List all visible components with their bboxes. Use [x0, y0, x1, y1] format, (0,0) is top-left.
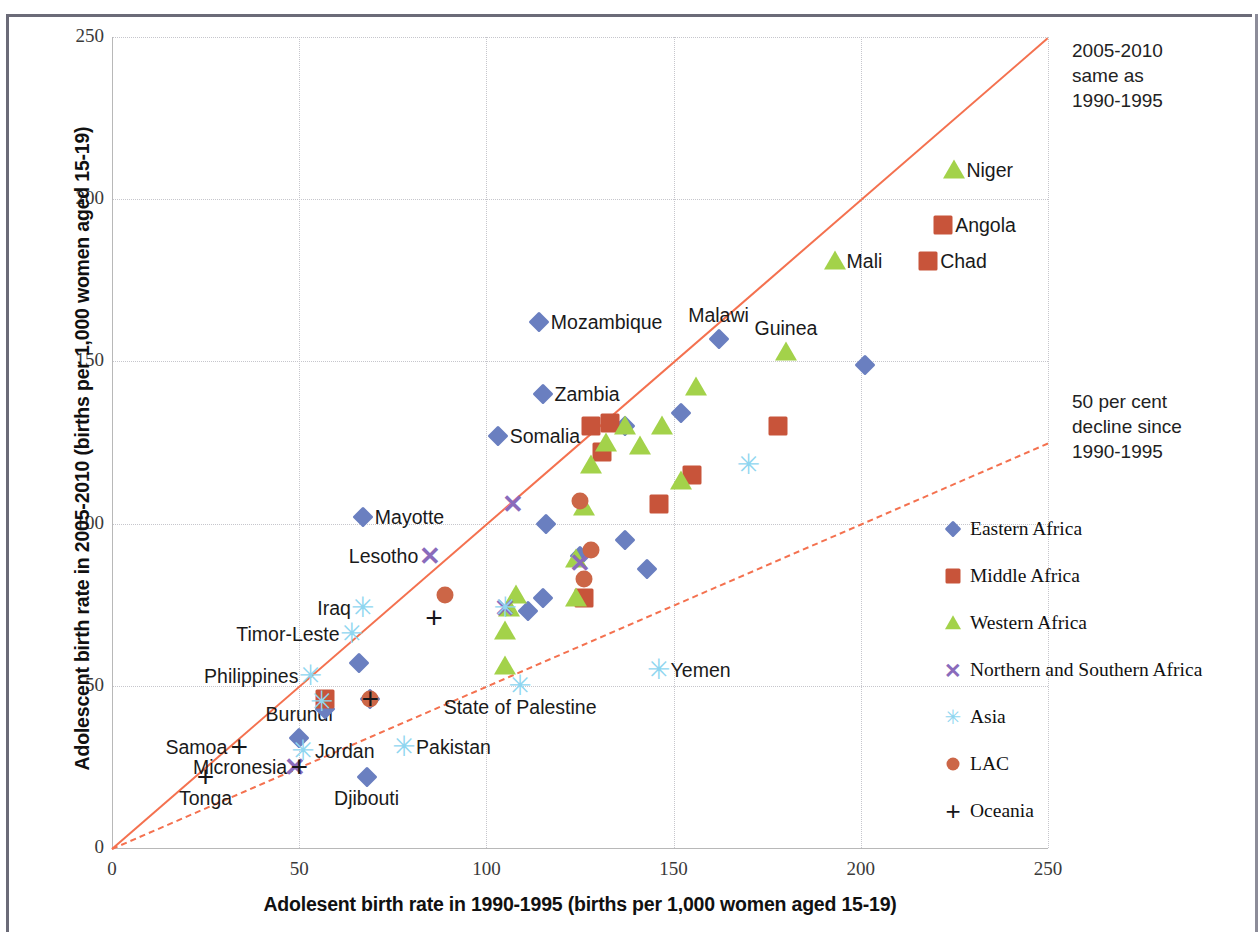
point-label-yemen: Yemen	[671, 658, 731, 681]
legend-item-eastern-africa[interactable]: Eastern Africa	[940, 505, 1258, 552]
data-point-eastern-africa-10[interactable]	[536, 513, 557, 534]
data-point-eastern-africa-16[interactable]	[348, 652, 369, 673]
point-label-mayotte: Mayotte	[375, 506, 444, 529]
data-point-oceania-4[interactable]: +	[358, 684, 382, 714]
data-point-western-africa-8[interactable]	[670, 471, 692, 490]
data-point-asia-9[interactable]: ✳	[492, 594, 518, 622]
legend-label: Western Africa	[970, 612, 1087, 634]
x-tick-label: 50	[269, 858, 329, 880]
point-label-somalia: Somalia	[510, 425, 580, 448]
legend-swatch	[940, 516, 966, 542]
data-point-middle-africa-7[interactable]	[649, 495, 668, 514]
data-point-eastern-africa-15[interactable]	[517, 601, 538, 622]
data-point-oceania-3[interactable]: +	[422, 603, 446, 633]
y-axis-line	[112, 37, 113, 849]
point-label-tonga: Tonga	[179, 787, 232, 810]
data-point-guinea[interactable]	[775, 341, 797, 360]
data-point-niger[interactable]	[943, 160, 965, 179]
data-point-northern-and-southern-africa-1[interactable]: ✕	[501, 491, 525, 517]
legend-item-oceania[interactable]: +Oceania	[940, 787, 1258, 834]
x-axis-line	[112, 848, 1048, 849]
point-label-jordan: Jordan	[315, 739, 375, 762]
annotation-decline-line1: 50 per cent	[1072, 389, 1182, 414]
data-point-middle-africa-5[interactable]	[769, 417, 788, 436]
legend-swatch	[940, 751, 966, 777]
gridline-horizontal	[112, 524, 1048, 525]
legend-item-northern-and-southern-africa[interactable]: ✕Northern and Southern Africa	[940, 646, 1258, 693]
x-tick-label: 250	[1018, 858, 1078, 880]
data-point-lesotho[interactable]: ✕	[418, 543, 442, 569]
point-label-philippines: Philippines	[204, 665, 298, 688]
annotation-same-as-line3: 1990-1995	[1072, 88, 1163, 113]
legend-label: Northern and Southern Africa	[970, 659, 1202, 681]
square-marker-icon	[946, 568, 961, 583]
data-point-yemen[interactable]: ✳	[646, 656, 672, 684]
gridline-vertical	[299, 37, 300, 848]
data-point-mozambique[interactable]	[528, 312, 549, 333]
chart-page: 050100150200250 050100150200250 Mozambiq…	[0, 0, 1260, 941]
x-tick-label: 100	[456, 858, 516, 880]
point-label-lesotho: Lesotho	[349, 545, 418, 568]
data-point-mali[interactable]	[824, 250, 846, 269]
data-point-micronesia[interactable]: +	[287, 752, 311, 782]
data-point-eastern-africa-7[interactable]	[854, 354, 875, 375]
data-point-western-africa-6[interactable]	[629, 435, 651, 454]
data-point-eastern-africa-13[interactable]	[637, 558, 658, 579]
data-point-eastern-africa-12[interactable]	[614, 529, 635, 550]
data-point-chad[interactable]	[919, 251, 938, 270]
star-marker-icon: ✳	[940, 707, 966, 727]
point-label-niger: Niger	[966, 159, 1013, 182]
data-point-eastern-africa-14[interactable]	[532, 588, 553, 609]
legend-swatch: ✳	[940, 704, 966, 730]
point-label-state-of-palestine: State of Palestine	[444, 696, 597, 719]
triangle-marker-icon	[945, 615, 961, 629]
data-point-zambia[interactable]	[532, 383, 553, 404]
data-point-asia-8[interactable]: ✳	[309, 688, 335, 716]
legend-swatch: +	[940, 798, 966, 824]
legend-item-middle-africa[interactable]: Middle Africa	[940, 552, 1258, 599]
data-point-western-africa-12[interactable]	[565, 588, 587, 607]
data-point-western-africa-7[interactable]	[651, 416, 673, 435]
data-point-lac-1[interactable]	[572, 492, 589, 509]
point-label-zambia: Zambia	[555, 382, 620, 405]
x-marker-icon: ✕	[941, 659, 965, 680]
point-label-angola: Angola	[955, 214, 1016, 237]
point-label-pakistan: Pakistan	[416, 736, 491, 759]
legend-swatch	[940, 610, 966, 636]
data-point-somalia[interactable]	[487, 425, 508, 446]
point-label-timor-leste: Timor-Leste	[236, 622, 339, 645]
x-tick-label: 200	[831, 858, 891, 880]
legend-item-asia[interactable]: ✳Asia	[940, 693, 1258, 740]
legend-label: Asia	[970, 706, 1006, 728]
legend-item-lac[interactable]: LAC	[940, 740, 1258, 787]
data-point-angola[interactable]	[934, 216, 953, 235]
data-point-western-africa-3[interactable]	[685, 377, 707, 396]
data-point-western-africa-9[interactable]	[580, 455, 602, 474]
annotation-decline-line3: 1990-1995	[1072, 439, 1182, 464]
legend-swatch: ✕	[940, 657, 966, 683]
point-label-malawi: Malawi	[688, 304, 749, 327]
data-point-western-africa-5[interactable]	[595, 432, 617, 451]
legend-label: Oceania	[970, 800, 1034, 822]
data-point-western-africa-4[interactable]	[614, 416, 636, 435]
point-label-mozambique: Mozambique	[551, 311, 663, 334]
point-label-micronesia: Micronesia	[193, 755, 287, 778]
data-point-djibouti[interactable]	[356, 766, 377, 787]
gridline-vertical	[861, 37, 862, 848]
gridline-vertical	[486, 37, 487, 848]
chart-legend: Eastern AfricaMiddle AfricaWestern Afric…	[940, 505, 1258, 834]
point-label-mali: Mali	[847, 249, 883, 272]
data-point-lac-3[interactable]	[575, 570, 592, 587]
gridline-horizontal	[112, 361, 1048, 362]
data-point-lac-2[interactable]	[583, 541, 600, 558]
annotation-same-as-line2: same as	[1072, 63, 1163, 88]
data-point-timor-leste[interactable]: ✳	[339, 620, 365, 648]
point-label-djibouti: Djibouti	[334, 787, 399, 810]
legend-item-western-africa[interactable]: Western Africa	[940, 599, 1258, 646]
legend-label: LAC	[970, 753, 1009, 775]
diamond-marker-icon	[945, 520, 962, 537]
data-point-pakistan[interactable]: ✳	[391, 733, 417, 761]
data-point-asia-7[interactable]: ✳	[735, 451, 761, 479]
gridline-vertical	[674, 37, 675, 848]
gridline-horizontal	[112, 199, 1048, 200]
